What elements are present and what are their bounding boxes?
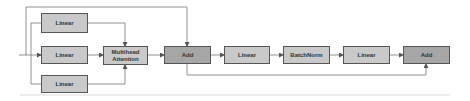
node-label: Linear: [55, 52, 73, 59]
node-label: Linear: [357, 52, 375, 59]
node-label-line2: Attention: [112, 56, 138, 63]
node-label: Linear: [55, 20, 73, 27]
node-label: Linear: [238, 52, 256, 59]
node-label: Add: [182, 52, 194, 59]
linear-q-node: Linear: [41, 13, 88, 33]
linear-k-node: Linear: [41, 46, 88, 64]
node-label: BatchNorm: [290, 52, 322, 59]
add-node-2: Add: [403, 46, 450, 64]
linear-v-node: Linear: [41, 75, 88, 93]
node-label: Add: [421, 52, 433, 59]
linear-ff2-node: Linear: [343, 46, 390, 64]
transformer-block-diagram: Linear Linear Linear Multihead Attention…: [0, 0, 470, 101]
node-label: Linear: [55, 81, 73, 88]
add-node-1: Add: [164, 46, 211, 64]
batchnorm-node: BatchNorm: [283, 46, 330, 64]
linear-ff1-node: Linear: [224, 46, 270, 64]
multihead-attention-node: Multihead Attention: [103, 46, 148, 65]
